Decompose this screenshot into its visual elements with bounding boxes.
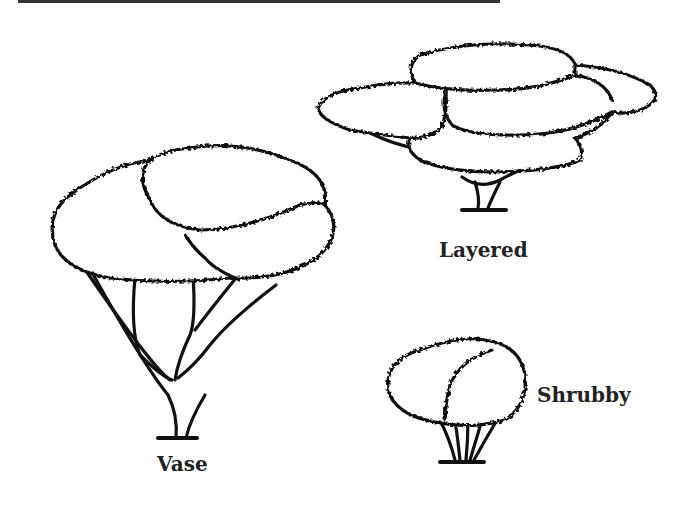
vase-tree-icon	[52, 146, 334, 438]
layered-tree-icon	[318, 44, 656, 210]
label-shrubby: Shrubby	[537, 383, 631, 407]
shrubby-tree-icon	[388, 339, 526, 462]
tree-forms-diagram	[0, 0, 699, 510]
label-vase: Vase	[157, 452, 208, 476]
label-layered: Layered	[439, 238, 528, 262]
